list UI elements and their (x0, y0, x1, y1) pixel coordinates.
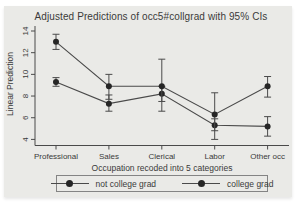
legend-label: college grad (227, 179, 273, 189)
stata-margins-plot: Adjusted Predictions of occ5#collgrad wi… (4, 6, 292, 197)
x-axis-title: Occupation recoded into 5 categories (35, 163, 289, 173)
data-point-marker-not-college-grad (265, 123, 271, 129)
data-point-marker-not-college-grad (106, 101, 112, 107)
data-point-marker-college-grad (265, 83, 271, 89)
data-point-marker-not-college-grad (53, 79, 59, 85)
x-category-label: Clerical (148, 152, 175, 161)
x-category-label: Other occ (250, 152, 285, 161)
y-tick-label: 14 (21, 26, 30, 35)
x-category-label: Sales (99, 152, 119, 161)
x-category-label: Labor (204, 152, 225, 161)
plot-area: 468101214ProfessionalSalesClericalLaborO… (4, 20, 292, 170)
line-marker-symbol (182, 180, 220, 187)
line-marker-symbol (51, 180, 89, 187)
data-point-marker-college-grad (212, 111, 218, 117)
marker-dot-icon (66, 180, 73, 187)
legend-item-college-grad: college grad (182, 179, 273, 189)
y-tick-label: 6 (21, 115, 30, 120)
y-tick-label: 8 (21, 93, 30, 98)
y-tick-label: 12 (21, 48, 30, 57)
legend-label: not college grad (96, 179, 157, 189)
legend: not college grad college grad (56, 175, 268, 192)
legend-item-not-college-grad: not college grad (51, 179, 157, 189)
marker-dot-icon (198, 180, 205, 187)
y-tick-label: 4 (21, 137, 30, 142)
data-point-marker-college-grad (106, 83, 112, 89)
data-point-marker-college-grad (53, 39, 59, 45)
x-category-label: Professional (34, 152, 78, 161)
data-point-marker-college-grad (159, 83, 165, 89)
y-tick-label: 10 (21, 69, 30, 78)
